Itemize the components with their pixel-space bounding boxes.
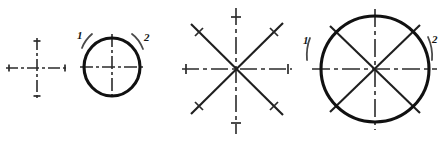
panel-center-cross: [6, 38, 68, 99]
panel-eight-ray-star: [182, 8, 292, 134]
technical-figure: 1 2 1 2: [0, 0, 443, 150]
panel4-step-label-2: 2: [431, 33, 438, 45]
panel4-step-label-1: 1: [303, 34, 309, 46]
figure-canvas: 1 2 1 2: [0, 0, 443, 150]
panel-circle-over-star: 1 2: [303, 9, 438, 130]
hint-arc-panel2-left-icon: [82, 34, 92, 48]
panel-circle-over-cross: 1 2: [77, 29, 150, 100]
panel2-step-label-1: 1: [77, 29, 83, 41]
panel2-step-label-2: 2: [143, 31, 150, 43]
